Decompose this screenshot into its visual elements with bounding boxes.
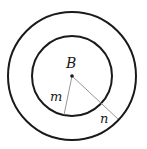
radius-m-line — [64, 76, 72, 115]
radius-n-label: n — [100, 111, 108, 126]
center-point — [70, 74, 74, 78]
radius-m-label: m — [50, 89, 62, 104]
concentric-circles-diagram: B m n — [0, 0, 147, 149]
center-label: B — [65, 55, 76, 71]
